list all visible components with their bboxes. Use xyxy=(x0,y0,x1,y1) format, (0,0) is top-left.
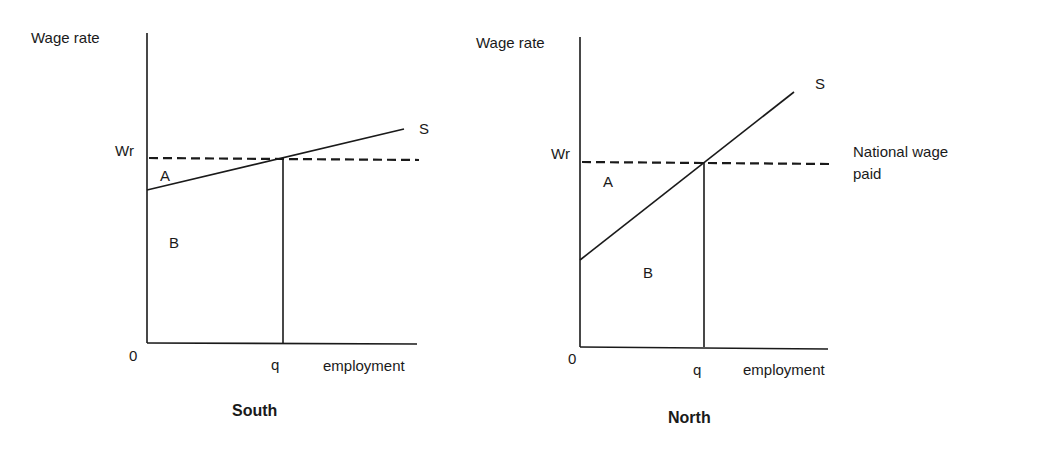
north-title: North xyxy=(668,410,711,426)
south-y-axis-label: Wage rate xyxy=(31,30,100,45)
north-chart xyxy=(580,37,830,349)
north-x-axis-label: employment xyxy=(743,362,825,377)
south-quantity-label: q xyxy=(271,357,279,372)
south-supply-label: S xyxy=(419,121,429,136)
south-area-b-label: B xyxy=(169,235,179,250)
north-wage-line xyxy=(582,162,830,164)
north-area-b-label: B xyxy=(643,265,653,280)
north-wage-line-label-2: paid xyxy=(853,166,881,181)
south-area-a-label: A xyxy=(160,168,170,183)
north-wage-label: Wr xyxy=(551,146,570,161)
south-x-axis-label: employment xyxy=(323,358,405,373)
north-x-axis xyxy=(580,347,828,349)
south-title: South xyxy=(232,403,277,419)
south-origin-label: 0 xyxy=(129,348,137,363)
north-quantity-label: q xyxy=(693,362,701,377)
north-supply-label: S xyxy=(815,76,825,91)
south-wage-label: Wr xyxy=(115,143,134,158)
north-wage-line-label-1: National wage xyxy=(853,144,948,159)
north-area-a-label: A xyxy=(603,174,613,189)
diagram-canvas xyxy=(0,0,1051,452)
north-y-axis-label: Wage rate xyxy=(476,35,545,50)
south-x-axis xyxy=(147,343,417,344)
north-origin-label: 0 xyxy=(568,351,576,366)
south-chart xyxy=(147,33,419,344)
